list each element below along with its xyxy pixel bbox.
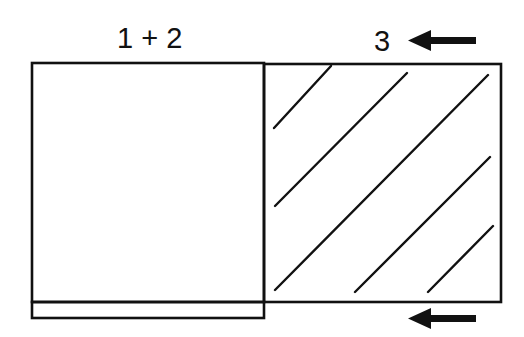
top-left-arrow-icon: [408, 30, 476, 51]
bottom-strip: [32, 302, 264, 318]
bottom-left-arrow-icon: [408, 308, 476, 329]
diagram-canvas: [0, 0, 524, 337]
hatch-lines: [274, 66, 493, 292]
left-box: [32, 63, 264, 302]
